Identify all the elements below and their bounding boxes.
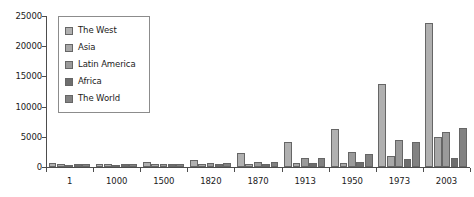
bar	[442, 132, 450, 167]
legend-swatch-icon	[65, 44, 73, 52]
bar	[331, 129, 339, 167]
bar	[160, 164, 168, 167]
x-tick-mark	[423, 168, 424, 172]
x-tick-mark	[234, 168, 235, 172]
x-tick-label: 1000	[106, 177, 127, 186]
legend-swatch-icon	[65, 27, 73, 35]
legend-item: Africa	[65, 73, 143, 90]
x-axis: 110001500182018701913195019732003	[46, 168, 470, 197]
bar	[176, 164, 184, 167]
x-tick-mark	[376, 168, 377, 172]
x-tick-label: 1973	[389, 177, 410, 186]
x-tick-label: 1950	[342, 177, 363, 186]
legend-swatch-icon	[65, 78, 73, 86]
bar	[271, 162, 279, 167]
bar	[96, 164, 104, 167]
bar	[143, 162, 151, 167]
bar	[404, 159, 412, 167]
bar	[74, 164, 82, 167]
bar-group	[425, 16, 467, 167]
bar	[293, 163, 301, 167]
bar	[318, 158, 326, 167]
x-tick-mark	[329, 168, 330, 172]
bar-group	[378, 16, 420, 167]
x-tick-mark	[46, 168, 47, 172]
y-tick-label: 15000	[15, 72, 42, 81]
x-tick-mark	[282, 168, 283, 172]
bar-group	[284, 16, 326, 167]
bar	[340, 163, 348, 167]
bar	[365, 154, 373, 167]
legend-item: The West	[65, 22, 143, 39]
bar	[245, 164, 253, 167]
x-tick-label: 2003	[436, 177, 457, 186]
bar	[309, 163, 317, 167]
bar	[356, 162, 364, 167]
bar-group	[237, 16, 279, 167]
y-axis: 0500010000150002000025000	[0, 0, 46, 197]
y-tick-label: 5000	[21, 133, 42, 142]
bar	[412, 142, 420, 167]
bar	[104, 164, 112, 167]
bar	[451, 158, 459, 167]
bar	[301, 158, 309, 167]
x-tick-mark	[93, 168, 94, 172]
x-tick-mark	[187, 168, 188, 172]
x-tick-label: 1	[67, 177, 72, 186]
bar	[49, 163, 57, 167]
bar	[129, 164, 137, 167]
bar	[215, 164, 223, 167]
chart-legend: The WestAsiaLatin AmericaAfricaThe World	[58, 16, 150, 113]
x-tick-label: 1820	[200, 177, 221, 186]
bar	[395, 140, 403, 167]
x-tick-label: 1500	[153, 177, 174, 186]
bar	[223, 163, 231, 167]
bar	[387, 156, 395, 167]
bar	[121, 164, 129, 167]
legend-item: Asia	[65, 39, 143, 56]
legend-item: Latin America	[65, 56, 143, 73]
legend-swatch-icon	[65, 95, 73, 103]
bar-group	[190, 16, 232, 167]
bar	[348, 152, 356, 167]
bar	[190, 160, 198, 167]
x-tick-mark	[140, 168, 141, 172]
x-tick-label: 1870	[247, 177, 268, 186]
bar	[151, 164, 159, 167]
bar-group	[331, 16, 373, 167]
bar	[378, 84, 386, 167]
bar	[425, 23, 433, 167]
bar	[82, 164, 90, 167]
legend-label: The World	[78, 94, 120, 103]
legend-label: Asia	[78, 43, 95, 52]
bar	[237, 153, 245, 167]
legend-swatch-icon	[65, 61, 73, 69]
bar	[168, 164, 176, 167]
bar	[284, 142, 292, 167]
bar	[112, 165, 120, 167]
bar	[57, 164, 65, 167]
legend-label: Africa	[78, 77, 102, 86]
bar	[254, 162, 262, 167]
x-tick-label: 1913	[294, 177, 315, 186]
bar	[434, 137, 442, 167]
legend-item: The World	[65, 90, 143, 107]
legend-label: The West	[78, 26, 117, 35]
legend-label: Latin America	[78, 60, 136, 69]
bar	[459, 128, 467, 167]
bar	[198, 164, 206, 168]
y-tick-label: 25000	[15, 12, 42, 21]
bar	[65, 165, 73, 167]
x-tick-mark	[470, 168, 471, 172]
y-tick-label: 10000	[15, 102, 42, 111]
y-tick-label: 20000	[15, 42, 42, 51]
bar	[207, 163, 215, 167]
bar-chart: 0500010000150002000025000 11000150018201…	[0, 0, 474, 197]
bar	[262, 164, 270, 167]
